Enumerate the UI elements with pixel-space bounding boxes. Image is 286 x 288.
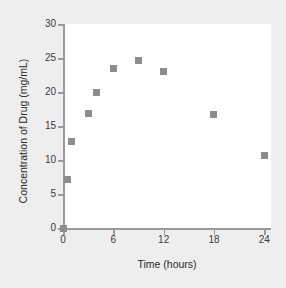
y-axis-line	[63, 24, 65, 229]
y-tick-label: 30	[16, 19, 56, 29]
data-point	[60, 225, 67, 232]
data-point	[160, 68, 167, 75]
x-tick-mark	[214, 230, 216, 235]
y-tick-mark	[58, 24, 63, 26]
data-point	[110, 65, 117, 72]
y-tick-mark	[58, 92, 63, 94]
x-tick-label: 18	[199, 234, 229, 245]
x-tick-label: 0	[48, 234, 78, 245]
y-axis-title: Concentration of Drug (mg/mL)	[17, 31, 29, 231]
x-axis-title: Time (hours)	[63, 258, 271, 270]
data-point	[68, 138, 75, 145]
x-tick-mark	[113, 230, 115, 235]
y-tick-mark	[58, 160, 63, 162]
x-tick-label: 12	[149, 234, 179, 245]
data-point	[135, 57, 142, 64]
y-tick-mark	[58, 126, 63, 128]
x-axis-line	[63, 228, 271, 230]
y-tick-mark	[58, 58, 63, 60]
data-point	[261, 152, 268, 159]
x-tick-label: 24	[249, 234, 279, 245]
data-point	[85, 110, 92, 117]
data-point	[64, 176, 71, 183]
data-point	[93, 89, 100, 96]
plot-panel	[63, 24, 271, 229]
x-tick-label: 6	[98, 234, 128, 245]
data-point	[210, 111, 217, 118]
chart-figure: 051015202530 06121824 Time (hours) Conce…	[0, 0, 286, 288]
x-tick-mark	[164, 230, 166, 235]
x-tick-mark	[264, 230, 266, 235]
y-tick-mark	[58, 194, 63, 196]
